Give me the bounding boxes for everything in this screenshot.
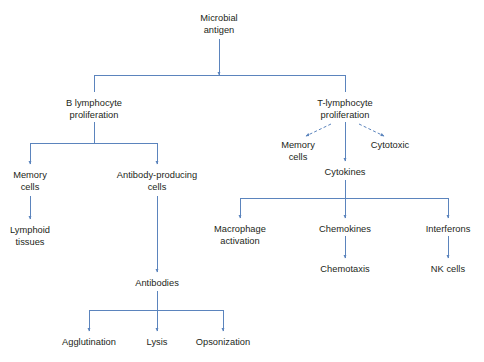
node-label-line: Microbial	[200, 13, 237, 25]
node-macrophage-activation: Macrophageactivation	[214, 224, 266, 247]
node-label-line: T-lymphocyte	[317, 98, 373, 110]
node-label-line: NK cells	[431, 264, 465, 276]
node-label-line: cells	[117, 182, 197, 194]
node-label-line: Memory	[281, 140, 315, 152]
node-t-memory-cells: Memorycells	[281, 140, 315, 163]
node-label-line: cells	[281, 152, 315, 164]
node-label-line: Memory	[13, 170, 47, 182]
node-chemotaxis: Chemotaxis	[320, 264, 369, 276]
node-label-line: proliferation	[66, 110, 122, 122]
node-label-line: proliferation	[317, 110, 373, 122]
edge-t-to-cytotoxic	[359, 124, 384, 136]
node-antibodies: Antibodies	[135, 278, 179, 290]
node-cytokines: Cytokines	[325, 167, 366, 179]
node-nk-cells: NK cells	[431, 264, 465, 276]
node-label-line: tissues	[10, 237, 50, 249]
node-label-line: B lymphocyte	[66, 98, 122, 110]
node-label-line: Interferons	[426, 224, 471, 236]
node-opsonization: Opsonization	[196, 337, 251, 349]
flowchart-edges	[0, 0, 484, 362]
node-label-line: Macrophage	[214, 224, 266, 236]
node-label-line: antigen	[200, 25, 237, 37]
node-label-line: Chemokines	[319, 224, 371, 236]
node-label-line: cells	[13, 182, 47, 194]
flowchart-canvas: MicrobialantigenB lymphocyteproliferatio…	[0, 0, 484, 362]
node-antibody-producing: Antibody-producingcells	[117, 170, 197, 193]
node-label-line: Lymphoid	[10, 225, 50, 237]
node-label-line: Antibodies	[135, 278, 179, 290]
node-chemokines: Chemokines	[319, 224, 371, 236]
node-cytotoxic: Cytotoxic	[371, 140, 409, 152]
node-label-line: Opsonization	[196, 337, 251, 349]
node-t-lymphocyte: T-lymphocyteproliferation	[317, 98, 373, 121]
node-agglutination: Agglutination	[62, 337, 116, 349]
node-label-line: Lysis	[147, 337, 168, 349]
node-label-line: activation	[214, 236, 266, 248]
node-microbial-antigen: Microbialantigen	[200, 13, 237, 36]
node-lysis: Lysis	[147, 337, 168, 349]
edge-t-to-memory	[306, 124, 331, 136]
node-label-line: Antibody-producing	[117, 170, 197, 182]
node-label-line: Chemotaxis	[320, 264, 369, 276]
node-label-line: Agglutination	[62, 337, 116, 349]
node-lymphoid-tissues: Lymphoidtissues	[10, 225, 50, 248]
node-interferons: Interferons	[426, 224, 471, 236]
node-b-memory-cells: Memorycells	[13, 170, 47, 193]
node-label-line: Cytotoxic	[371, 140, 409, 152]
node-b-lymphocyte: B lymphocyteproliferation	[66, 98, 122, 121]
node-label-line: Cytokines	[325, 167, 366, 179]
